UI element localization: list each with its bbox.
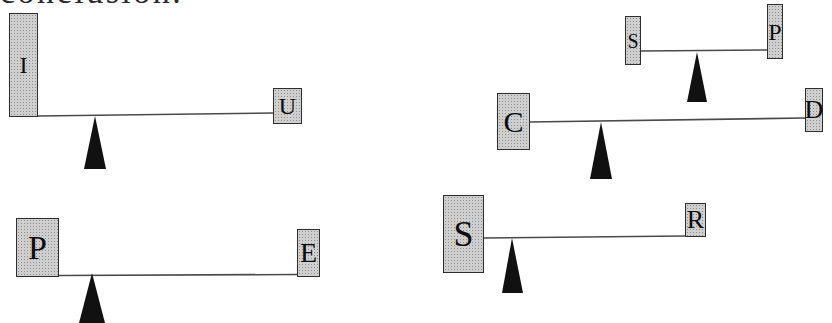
- weight-box-D: D: [805, 88, 823, 132]
- levers-overlay: [0, 0, 832, 323]
- weight-label-D: D: [805, 97, 824, 123]
- weight-box-P-top: P: [767, 4, 783, 59]
- fulcrum-top-left: [84, 116, 106, 169]
- weight-box-R: R: [685, 203, 706, 237]
- weight-box-U: U: [273, 88, 302, 124]
- weight-label-E: E: [300, 239, 317, 267]
- weight-label-I: I: [20, 53, 28, 77]
- weight-box-E: E: [297, 229, 320, 277]
- weight-label-S-bottom: S: [453, 216, 473, 252]
- weight-box-I: I: [9, 13, 38, 117]
- beam-top-right: [641, 50, 767, 51]
- weight-box-C: C: [497, 93, 530, 150]
- weight-label-C: C: [503, 107, 523, 137]
- weight-label-U: U: [279, 94, 296, 118]
- weight-box-S-top: S: [625, 16, 641, 65]
- weight-label-P-bottom: P: [28, 231, 47, 265]
- weight-label-S-top: S: [627, 31, 638, 51]
- weight-box-P-bottom: P: [16, 218, 59, 277]
- weight-label-P-top: P: [768, 20, 781, 44]
- fulcrum-top-right: [687, 52, 707, 102]
- fulcrum-bottom-left: [79, 273, 105, 323]
- weight-label-R: R: [687, 207, 704, 233]
- beam-top-left: [38, 113, 274, 116]
- weight-box-S-bottom: S: [443, 195, 484, 273]
- figure-canvas: conclusion. I U S P C D P: [0, 0, 832, 323]
- beam-bottom-left: [59, 275, 297, 276]
- beam-bottom-right: [484, 236, 685, 238]
- fulcrum-middle-right: [590, 122, 612, 179]
- beam-middle-right: [529, 118, 805, 122]
- fulcrum-bottom-right: [502, 238, 523, 293]
